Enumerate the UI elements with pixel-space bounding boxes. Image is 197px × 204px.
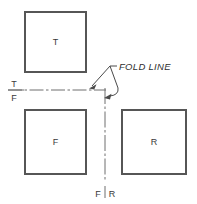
view-right-label: R	[151, 137, 158, 147]
view-front-label: F	[53, 137, 59, 147]
orthographic-projection-diagram: T F F R T F R	[0, 0, 197, 204]
diagram-canvas: T F F R T F R	[0, 0, 197, 204]
fold-line-f-r-group: F R	[95, 88, 116, 199]
callout-label-fold-line: FOLD LINE	[119, 61, 171, 72]
callout-leader-branch-horizontal	[92, 66, 110, 86]
fold-label-f-lower: F	[95, 189, 101, 199]
fold-label-f-upper: F	[11, 93, 17, 103]
fold-label-t: T	[11, 79, 17, 89]
view-right: R	[122, 110, 186, 174]
fold-line-callout: FOLD LINE	[89, 61, 171, 100]
fold-line-t-f-group: T F	[8, 79, 106, 103]
view-front: F	[25, 110, 86, 174]
view-top: T	[25, 12, 86, 72]
view-top-label: T	[53, 37, 59, 47]
callout-leader-branch-vertical	[110, 66, 118, 96]
fold-label-r: R	[109, 189, 116, 199]
